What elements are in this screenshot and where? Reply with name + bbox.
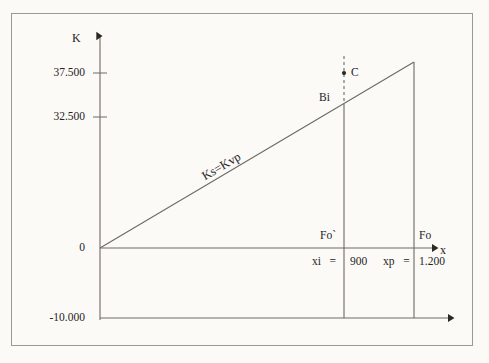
chart-drawing-canvas — [0, 0, 489, 363]
y-tick-label-0: 0 — [30, 242, 85, 254]
point-c-marker — [342, 71, 346, 75]
chart-page: K 37.500 32.500 0 -10.000 Ks=Kvp C Bi Fo… — [0, 0, 489, 363]
y-axis-label: K — [72, 32, 81, 44]
xp-label: xp = — [383, 256, 410, 268]
point-bi-label: Bi — [319, 92, 330, 104]
xi-value: 900 — [350, 256, 367, 268]
fo-prime-label: Fo` — [320, 230, 336, 242]
xi-label: xi = — [312, 256, 336, 268]
y-tick-label-minus-10000: -10.000 — [22, 312, 85, 324]
y-tick-label-32500: 32.500 — [30, 111, 85, 123]
point-c-label: C — [351, 67, 359, 79]
xp-value: 1.200 — [419, 256, 445, 268]
series-line-ks-kvp — [100, 62, 414, 248]
y-tick-label-37500: 37.500 — [30, 67, 85, 79]
fo-label: Fo — [419, 230, 431, 242]
